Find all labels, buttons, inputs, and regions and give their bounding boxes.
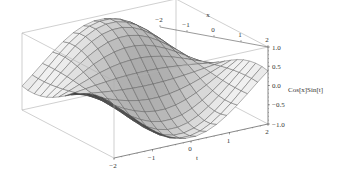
tick-label: 1 [227,137,231,145]
tick-label: 0 [188,145,192,153]
tick-label: 2 [265,128,269,136]
z-axis-label: Cos[x]Sin[t] [288,86,323,94]
tick-label: −1 [182,21,190,29]
tick-label: 1.0 [272,44,281,52]
surface-mesh [22,19,268,139]
tick-label: 2 [265,36,269,44]
z-axis: Cos[x]Sin[t] 1.00.50.0−0.5−1.0 [268,44,323,129]
tick-label: −1 [148,154,156,162]
tick-label: 0.0 [272,82,281,90]
tick-label: −0.5 [272,101,285,109]
tick-label: −1.0 [272,121,285,129]
x-axis: x −2−1012 [155,11,269,47]
tick-label: −2 [155,16,163,24]
tick-label: 0.5 [272,63,281,71]
tick-label: −2 [109,162,117,170]
tick-label: 0 [211,26,215,34]
t-axis-label: t [196,154,198,162]
surface-plot: x −2−1012 t −2−1012 Cos[x]Sin[t] 1.00.50… [0,0,340,179]
tick-label: 1 [238,31,242,39]
x-axis-label: x [206,11,210,19]
